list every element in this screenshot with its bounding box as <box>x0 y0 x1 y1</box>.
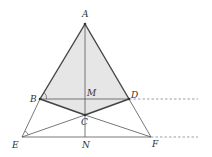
angle-mark-e <box>25 131 29 135</box>
label-n: N <box>81 140 91 150</box>
label-m: M <box>86 88 97 98</box>
shaded-quadrilateral-abcd <box>40 24 129 115</box>
label-f: F <box>151 139 159 149</box>
segment-cf <box>85 115 151 137</box>
segment-ec <box>22 115 85 137</box>
segment-df <box>129 99 151 137</box>
point-a <box>84 23 87 26</box>
point-d <box>128 98 131 101</box>
label-b: B <box>29 94 37 104</box>
point-b <box>39 98 42 101</box>
label-a: A <box>81 9 89 19</box>
geometry-diagram: A B M D C E N F <box>0 0 212 157</box>
diagram-svg: A B M D C E N F <box>0 0 212 157</box>
point-c <box>84 114 87 117</box>
label-c: C <box>81 117 88 127</box>
label-d: D <box>130 90 138 100</box>
label-e: E <box>11 140 19 150</box>
